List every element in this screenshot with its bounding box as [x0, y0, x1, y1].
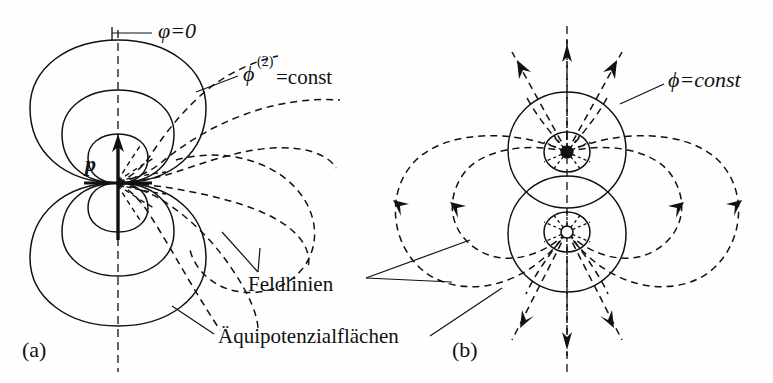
- phi-second-symbol: ϕ: [243, 61, 254, 86]
- aequipotenzial-leader-b: [430, 288, 502, 336]
- panel-b-arrow-down-left: [520, 310, 534, 328]
- panel-a-field-line-3: [118, 148, 336, 183]
- panel-a-field-line-6: [118, 183, 220, 330]
- negative-charge-marker: [561, 226, 573, 238]
- panel-b-radial-down-right: [567, 232, 622, 340]
- figure-root: p (a): [0, 0, 773, 383]
- panel-a-field-line-5: [118, 183, 258, 330]
- phi-second-rest: =const: [276, 65, 332, 89]
- panel-b-arrow-side-right-outer: [726, 200, 742, 216]
- panel-a-inner-field-line-u1: [118, 146, 140, 181]
- aequipotenzialflaechen-label: Äquipotenzialflächen: [218, 324, 399, 348]
- phi-zero-label: φ=0: [158, 18, 196, 43]
- panel-b-arrow-up-right: [603, 60, 617, 79]
- panel-b-arrow-up-left: [517, 60, 531, 79]
- feldlinien-leader-a1: [222, 232, 258, 272]
- dipole-field-figure: p (a): [0, 0, 773, 383]
- panel-a-field-line-4: [118, 183, 309, 268]
- feldlinien-label: Feldlinien: [248, 272, 334, 296]
- phi-second-label: ϕ (2) =const: [243, 54, 332, 89]
- phi-const-label: ϕ=const: [668, 67, 742, 92]
- panel-a-field-line-2: [118, 100, 340, 183]
- positive-charge-marker: [561, 146, 573, 158]
- panel-a-label: (a): [22, 337, 46, 362]
- panel-b-arrow-down-right: [600, 310, 614, 328]
- dipole-moment-label: p: [83, 151, 96, 176]
- phi-second-superscript: (2): [257, 54, 274, 70]
- panel-b-label: (b): [452, 337, 478, 362]
- phi-const-leader: [620, 84, 664, 104]
- feldlinien-leader-a2: [258, 248, 260, 272]
- phi-second-leader: [196, 76, 238, 92]
- panel-b-radial-down-left: [512, 232, 567, 340]
- feldlinien-leader-b1: [366, 240, 470, 278]
